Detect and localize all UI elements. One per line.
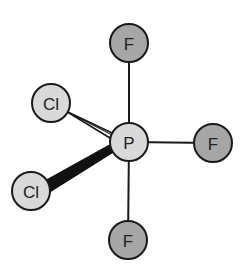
atom-label: F [124,35,134,54]
atom-label: F [123,232,133,251]
atom-cl-upper: Cl [32,84,70,122]
atom-label: Cl [43,95,59,114]
atom-f-bottom: F [109,221,147,259]
bond-p-cl-lower-solid-wedge [40,143,116,195]
atom-label: Cl [23,183,39,202]
molecule-diagram: F F F Cl Cl P [0,0,248,276]
atom-f-top: F [110,24,148,62]
atom-p-central: P [110,123,148,161]
atom-label: F [208,135,218,154]
atom-cl-lower: Cl [12,172,50,210]
atom-label: P [123,134,134,153]
atom-f-right: F [194,124,232,162]
